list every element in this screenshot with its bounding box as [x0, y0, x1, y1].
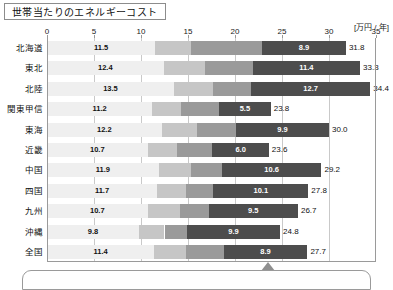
- bar-segment-2: [155, 41, 191, 55]
- stacked-bar[interactable]: 11.48.9: [47, 245, 307, 259]
- bar-segment-value: 12.4: [47, 61, 164, 75]
- bar-total-value: 34.4: [373, 79, 389, 99]
- row-label: 東北: [25, 58, 43, 78]
- stacked-bar[interactable]: 12.411.4: [47, 61, 360, 75]
- stacked-bar[interactable]: 12.29.9: [47, 123, 329, 137]
- bar-row: 中国11.910.629.2: [47, 160, 376, 180]
- row-label: 沖縄: [25, 222, 43, 242]
- bar-segment-value: 8.9: [262, 41, 346, 55]
- bar-total-value: 33.3: [363, 58, 379, 78]
- bar-segment-2: [148, 204, 180, 218]
- bar-segment-3: [205, 61, 253, 75]
- bar-segment-value: 10.6: [222, 163, 322, 177]
- bar-segment-value: 12.7: [251, 82, 370, 96]
- bar-row: 北陸13.512.734.4: [47, 79, 376, 99]
- bar-total-value: 23.6: [272, 140, 288, 160]
- bar-segment-1: 11.5: [47, 41, 155, 55]
- bar-segment-4: 9.9: [236, 123, 329, 137]
- bar-row: 沖縄9.89.924.8: [47, 222, 376, 242]
- bar-segment-3: [197, 123, 236, 137]
- bar-segment-1: 10.7: [47, 204, 148, 218]
- bar-segment-value: 11.4: [253, 61, 360, 75]
- bar-segment-value: 10.7: [47, 204, 148, 218]
- bar-segment-2: [139, 225, 164, 239]
- bar-segment-3: [165, 225, 188, 239]
- bar-segment-3: [186, 184, 213, 198]
- bar-segment-4: 9.5: [209, 204, 298, 218]
- bar-row: 全国11.48.927.7: [47, 242, 376, 262]
- bar-segment-2: [152, 102, 181, 116]
- chart-title-box: 世帯当たりのエネルギーコスト: [4, 3, 166, 20]
- row-label: 関東甲信: [7, 99, 43, 119]
- bar-row: 関東甲信11.25.523.8: [47, 99, 376, 119]
- bar-segment-4: 11.4: [253, 61, 360, 75]
- row-label: 近畿: [25, 140, 43, 160]
- chart-plot-area: 北海道11.58.931.8東北12.411.433.3北陸13.512.734…: [47, 38, 376, 262]
- bar-segment-value: 12.2: [47, 123, 162, 137]
- bar-total-value: 24.8: [283, 222, 299, 242]
- row-label: 四国: [25, 181, 43, 201]
- bar-segment-value: 10.1: [213, 184, 308, 198]
- bar-row: 東北12.411.433.3: [47, 58, 376, 78]
- bar-segment-3: [180, 204, 209, 218]
- bar-segment-4: 10.1: [213, 184, 308, 198]
- bar-segment-1: 12.4: [47, 61, 164, 75]
- callout-box: [22, 270, 371, 290]
- bar-row: 四国11.710.127.8: [47, 181, 376, 201]
- bar-total-value: 29.2: [324, 160, 340, 180]
- stacked-bar[interactable]: 10.79.5: [47, 204, 298, 218]
- bar-segment-value: 6.0: [212, 143, 268, 157]
- bar-segment-4: 6.0: [212, 143, 268, 157]
- bar-segment-2: [148, 143, 177, 157]
- bar-segment-4: 10.6: [222, 163, 322, 177]
- row-label: 北陸: [25, 79, 43, 99]
- bar-total-value: 26.7: [301, 201, 317, 221]
- bar-segment-value: 13.5: [47, 82, 174, 96]
- bar-row: 東海12.29.930.0: [47, 120, 376, 140]
- bar-segment-value: 9.9: [187, 225, 280, 239]
- row-label: 全国: [25, 242, 43, 262]
- stacked-bar[interactable]: 10.76.0: [47, 143, 269, 157]
- bar-segment-value: 9.9: [236, 123, 329, 137]
- bar-segment-1: 11.4: [47, 245, 154, 259]
- bar-segment-value: 9.8: [47, 225, 139, 239]
- bar-segment-value: 11.2: [47, 102, 152, 116]
- stacked-bar[interactable]: 13.512.7: [47, 82, 370, 96]
- bar-total-value: 27.8: [311, 181, 327, 201]
- bar-segment-value: 11.9: [47, 163, 159, 177]
- bar-segment-4: 5.5: [219, 102, 271, 116]
- bar-segment-3: [181, 102, 219, 116]
- row-label: 北海道: [16, 38, 43, 58]
- bar-segment-2: [154, 245, 186, 259]
- bar-segment-2: [174, 82, 213, 96]
- bar-segment-1: 11.7: [47, 184, 157, 198]
- bar-row: 近畿10.76.023.6: [47, 140, 376, 160]
- bar-segment-value: 5.5: [219, 102, 271, 116]
- bar-segment-1: 10.7: [47, 143, 148, 157]
- bar-row: 九州10.79.526.7: [47, 201, 376, 221]
- stacked-bar[interactable]: 11.910.6: [47, 163, 321, 177]
- bar-segment-4: 8.9: [262, 41, 346, 55]
- x-axis: 05101520253035: [47, 27, 376, 38]
- bar-total-value: 31.8: [349, 38, 365, 58]
- bar-segment-4: 9.9: [187, 225, 280, 239]
- bar-total-value: 30.0: [332, 120, 348, 140]
- row-label: 中国: [25, 160, 43, 180]
- stacked-bar[interactable]: 11.25.5: [47, 102, 271, 116]
- bar-total-value: 27.7: [310, 242, 326, 262]
- stacked-bar[interactable]: 11.58.9: [47, 41, 346, 55]
- bar-segment-value: 8.9: [224, 245, 308, 259]
- bar-segment-1: 12.2: [47, 123, 162, 137]
- bar-segment-2: [162, 123, 198, 137]
- stacked-bar[interactable]: 11.710.1: [47, 184, 308, 198]
- bar-segment-3: [213, 82, 251, 96]
- bar-total-value: 23.8: [274, 99, 290, 119]
- bar-segment-1: 9.8: [47, 225, 139, 239]
- bar-segment-value: 9.5: [209, 204, 298, 218]
- bar-segment-1: 11.9: [47, 163, 159, 177]
- bar-segment-4: 8.9: [224, 245, 308, 259]
- bar-segment-2: [159, 163, 191, 177]
- bar-segment-3: [191, 41, 262, 55]
- page-title: 世帯当たりのエネルギーコスト: [12, 4, 158, 19]
- stacked-bar[interactable]: 9.89.9: [47, 225, 280, 239]
